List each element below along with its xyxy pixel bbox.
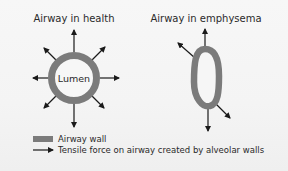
emphysema-airway-title: Airway in emphysema [150,13,261,24]
emphysema-airway: Airway in emphysema [150,13,261,131]
airway-diagram: Airway in health Lumen Airway in emphyse… [0,0,288,171]
healthy-airway: Airway in health Lumen [33,13,119,127]
arrow-icon [215,103,230,118]
arrow-icon [44,96,56,108]
lumen-label: Lumen [58,73,90,84]
arrow-icon [92,96,104,108]
airway-wall-swatch [33,136,53,142]
legend-tensile-force-label: Tensile force on airway created by alveo… [57,145,265,155]
arrow-icon [92,47,105,60]
legend-airway-wall-label: Airway wall [58,134,106,144]
arrow-icon [44,48,56,60]
healthy-airway-title: Airway in health [33,13,114,24]
legend: Airway wall Tensile force on airway crea… [33,134,265,155]
arrow-icon [178,43,195,58]
emphysema-airway-wall [194,49,219,106]
